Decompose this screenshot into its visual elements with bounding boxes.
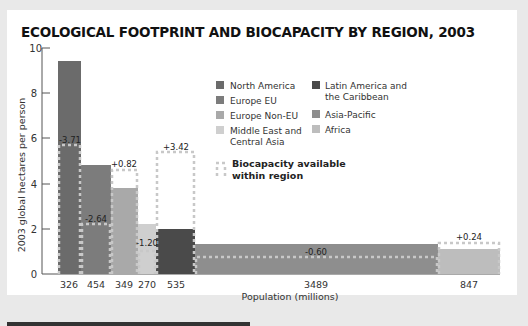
y-ticks <box>42 48 50 229</box>
legend-swatch <box>312 81 320 89</box>
y-tick-label: 4 <box>31 179 37 190</box>
y-tick-label: 6 <box>31 133 37 144</box>
legend-label: Asia-Pacific <box>325 110 376 120</box>
legend-label: Europe Non-EU <box>230 111 298 121</box>
x-axis-label: Population (millions) <box>242 291 339 302</box>
legend-label: Europe EU <box>230 96 277 106</box>
x-tick-label: 270 <box>138 279 156 290</box>
diff-label: -3.71 <box>59 135 81 145</box>
y-tick-label: 8 <box>31 88 37 99</box>
x-tick-label: 326 <box>60 279 78 290</box>
legend-label: Latin America and <box>325 81 407 91</box>
diff-label: -1.20 <box>136 238 158 248</box>
legend: North America Europe EU Europe Non-EU Mi… <box>216 81 407 181</box>
diff-label: +0.82 <box>111 159 137 169</box>
y-tick-label: 0 <box>31 269 37 280</box>
x-tick-label: 454 <box>87 279 105 290</box>
bar-middle-east <box>138 224 156 274</box>
biocapacity-legend-icon <box>216 163 226 177</box>
legend-swatch <box>216 111 224 119</box>
diff-label: -2.64 <box>85 214 107 224</box>
bar-europe-non-eu <box>111 188 138 274</box>
legend-label: the Caribbean <box>325 92 389 102</box>
legend-swatch <box>216 126 224 134</box>
diff-label: +0.24 <box>456 232 482 242</box>
y-axis-label: 2003 global hectares per person <box>16 98 27 253</box>
x-tick-label: 535 <box>167 279 185 290</box>
y-tick-label: 10 <box>29 43 42 54</box>
legend-swatch <box>216 81 224 89</box>
legend-swatch <box>312 110 320 118</box>
legend-label: North America <box>230 81 295 91</box>
x-tick-label: 847 <box>460 279 478 290</box>
legend-swatch <box>312 125 320 133</box>
diff-label: -0.60 <box>305 247 327 257</box>
y-tick-label: 2 <box>31 224 37 235</box>
legend-label: Middle East and <box>230 126 302 136</box>
bar-latin-america <box>156 229 195 274</box>
x-tick-label: 349 <box>115 279 133 290</box>
legend-label: Africa <box>325 125 351 135</box>
diff-label: +3.42 <box>163 142 189 152</box>
legend-swatch <box>216 96 224 104</box>
legend-biocapacity-label: within region <box>232 170 303 181</box>
bottom-bar <box>7 322 250 326</box>
legend-biocapacity-label: Biocapacity available <box>232 158 346 169</box>
bar-north-america <box>58 61 81 274</box>
x-tick-label: 3489 <box>304 279 328 290</box>
legend-label: Central Asia <box>230 137 285 147</box>
bar-africa <box>438 249 500 274</box>
